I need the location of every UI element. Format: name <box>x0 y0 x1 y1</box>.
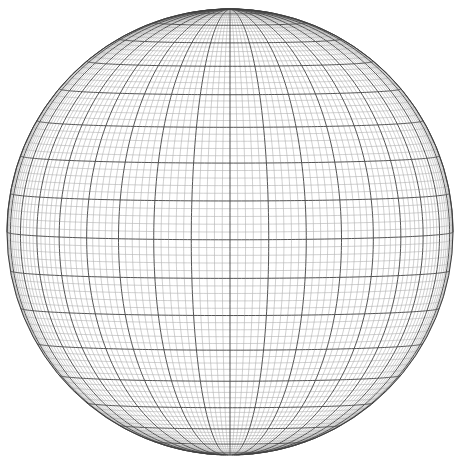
background-rect <box>0 0 461 465</box>
globe-graticule-svg <box>0 0 461 465</box>
globe-canvas <box>0 0 461 465</box>
